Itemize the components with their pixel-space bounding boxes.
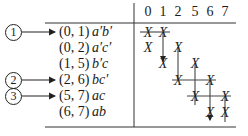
x-mark: X (205, 105, 215, 120)
x-mark: X (220, 89, 230, 104)
x-mark: X (173, 40, 183, 55)
x-mark: X (190, 56, 200, 71)
x-mark: X (158, 56, 168, 71)
x-mark: X (143, 40, 153, 55)
x-mark: X (173, 73, 183, 88)
table-graphics: X X X X X X X X X X X X (0, 0, 248, 136)
x-mark: X (158, 25, 168, 40)
x-mark: X (205, 73, 215, 88)
x-mark: X (220, 105, 230, 120)
x-mark: X (143, 25, 153, 40)
x-mark: X (190, 89, 200, 104)
